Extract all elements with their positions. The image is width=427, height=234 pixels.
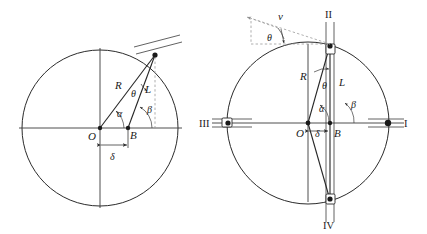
right-angle-arc-theta (314, 69, 329, 72)
mechanism-diagram-svg: O B R L α β θ δ (0, 0, 427, 234)
right-label-velocity-v: v (278, 10, 283, 22)
left-label-L: L (144, 83, 151, 95)
right-pin-joint-B (328, 121, 332, 125)
right-pin-joint-I (385, 120, 391, 126)
right-diagram-group: O B R L α β θ δ v θ I II III IV (199, 9, 408, 231)
right-center-point-O (306, 121, 311, 126)
left-diagram-group: O B R L α β θ δ (19, 35, 182, 208)
position-label-III: III (199, 118, 210, 129)
left-label-alpha: α (117, 108, 123, 119)
left-label-beta: β (146, 104, 152, 115)
right-label-theta: θ (322, 80, 327, 91)
left-label-O: O (88, 130, 96, 142)
left-label-theta: θ (131, 88, 136, 99)
right-velocity-angle-pointer (281, 29, 284, 43)
left-slider-guide-lower (136, 42, 182, 54)
figure-root: O B R L α β θ δ (0, 0, 427, 234)
right-label-O: O (296, 127, 304, 139)
right-pin-joint-III (225, 120, 230, 125)
right-pin-joint-IV (327, 196, 332, 201)
right-label-alpha: α (319, 103, 325, 114)
left-label-B: B (130, 129, 137, 141)
right-velocity-hypotenuse-dashed (253, 19, 330, 44)
right-label-beta: β (350, 99, 356, 110)
left-slider-guide-upper (134, 35, 180, 47)
left-label-R: R (114, 79, 122, 91)
left-pin-joint-A (152, 52, 157, 57)
position-label-II: II (325, 9, 332, 20)
left-label-delta: δ (110, 151, 115, 162)
right-label-B: B (334, 127, 341, 139)
right-label-velocity-theta: θ (267, 32, 272, 43)
right-label-R: R (299, 70, 307, 82)
position-label-I: I (404, 118, 408, 129)
right-label-L: L (338, 76, 345, 88)
right-label-delta: δ (315, 128, 320, 139)
position-label-IV: IV (323, 220, 334, 231)
left-center-point-O (98, 126, 102, 130)
